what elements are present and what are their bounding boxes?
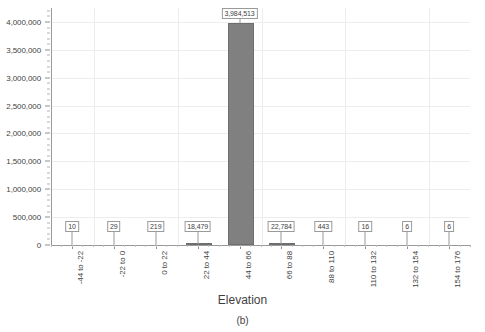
data-label-leader-line bbox=[407, 232, 408, 245]
x-minor-tick bbox=[261, 245, 262, 247]
x-category-label: 88 to 110 bbox=[327, 251, 336, 283]
x-minor-tick bbox=[344, 245, 345, 247]
y-minor-tick bbox=[47, 228, 50, 229]
x-minor-tick bbox=[187, 245, 188, 247]
x-category-label: 44 to 66 bbox=[244, 251, 253, 279]
y-minor-tick bbox=[47, 183, 50, 184]
y-minor-tick bbox=[47, 10, 50, 11]
x-minor-tick bbox=[313, 245, 314, 247]
y-minor-tick bbox=[47, 155, 50, 156]
y-minor-tick bbox=[47, 44, 50, 45]
data-label: 219 bbox=[147, 221, 164, 232]
y-minor-tick bbox=[47, 211, 50, 212]
y-minor-tick bbox=[47, 239, 50, 240]
gridline-vertical bbox=[345, 8, 346, 245]
x-category-label: -44 to -22 bbox=[76, 251, 85, 284]
x-category-label: 22 to 44 bbox=[202, 251, 211, 279]
y-minor-tick bbox=[47, 222, 50, 223]
x-minor-tick bbox=[229, 245, 230, 247]
data-label-leader-line bbox=[449, 232, 450, 245]
x-minor-tick bbox=[124, 245, 125, 247]
x-minor-tick bbox=[386, 245, 387, 247]
x-category-label: -22 to 0 bbox=[118, 251, 127, 277]
x-minor-tick bbox=[271, 245, 272, 247]
x-minor-tick bbox=[407, 245, 408, 247]
y-minor-tick bbox=[47, 200, 50, 201]
data-label-leader-line bbox=[281, 232, 282, 244]
x-minor-tick bbox=[61, 245, 62, 247]
data-label: 10 bbox=[65, 221, 79, 232]
y-minor-tick bbox=[47, 233, 50, 234]
gridline-vertical bbox=[94, 8, 95, 245]
y-tick-label: 2,500,000 bbox=[6, 101, 41, 110]
x-minor-tick bbox=[323, 245, 324, 247]
data-label-leader-line bbox=[239, 19, 240, 23]
y-minor-tick bbox=[47, 205, 50, 206]
data-label: 6 bbox=[444, 221, 454, 232]
data-label: 18,479 bbox=[184, 221, 211, 232]
figure-container: 0500,0001,000,0001,500,0002,000,0002,500… bbox=[0, 0, 485, 332]
y-minor-tick bbox=[47, 111, 50, 112]
y-minor-tick bbox=[47, 72, 50, 73]
x-minor-tick bbox=[145, 245, 146, 247]
data-label-leader-line bbox=[71, 232, 72, 245]
data-label: 443 bbox=[315, 221, 332, 232]
y-minor-tick bbox=[47, 55, 50, 56]
x-minor-tick bbox=[250, 245, 251, 247]
x-minor-tick bbox=[240, 245, 241, 247]
x-minor-tick bbox=[397, 245, 398, 247]
data-label-leader-line bbox=[323, 232, 324, 245]
x-minor-tick bbox=[439, 245, 440, 247]
x-minor-tick bbox=[51, 245, 52, 247]
y-tick-mark bbox=[45, 77, 50, 78]
x-minor-tick bbox=[114, 245, 115, 247]
x-minor-tick bbox=[428, 245, 429, 247]
data-label: 22,784 bbox=[268, 221, 295, 232]
x-minor-tick bbox=[177, 245, 178, 247]
x-minor-tick bbox=[72, 245, 73, 247]
y-minor-tick bbox=[47, 122, 50, 123]
y-tick-mark bbox=[45, 49, 50, 50]
x-category-label: 132 to 154 bbox=[411, 251, 420, 288]
x-minor-tick bbox=[93, 245, 94, 247]
y-minor-tick bbox=[47, 172, 50, 173]
y-tick-mark bbox=[45, 217, 50, 218]
figure-caption: (b) bbox=[0, 315, 485, 326]
y-minor-tick bbox=[47, 83, 50, 84]
data-label-leader-line bbox=[365, 232, 366, 245]
gridline-vertical bbox=[178, 8, 179, 245]
x-minor-tick bbox=[302, 245, 303, 247]
x-minor-tick bbox=[470, 245, 471, 247]
y-minor-tick bbox=[47, 38, 50, 39]
x-minor-tick bbox=[219, 245, 220, 247]
y-tick-mark bbox=[45, 133, 50, 134]
y-minor-tick bbox=[47, 144, 50, 145]
data-label-leader-line bbox=[113, 232, 114, 245]
y-minor-tick bbox=[47, 66, 50, 67]
gridline-vertical bbox=[429, 8, 430, 245]
y-minor-tick bbox=[47, 166, 50, 167]
data-label-leader-line bbox=[197, 232, 198, 244]
y-tick-mark bbox=[45, 245, 50, 246]
x-minor-tick bbox=[418, 245, 419, 247]
x-minor-tick bbox=[355, 245, 356, 247]
x-minor-tick bbox=[103, 245, 104, 247]
gridline-vertical bbox=[262, 8, 263, 245]
y-tick-mark bbox=[45, 189, 50, 190]
x-minor-tick bbox=[292, 245, 293, 247]
x-minor-tick bbox=[166, 245, 167, 247]
data-label-leader-line bbox=[155, 232, 156, 245]
y-minor-tick bbox=[47, 178, 50, 179]
y-minor-tick bbox=[47, 100, 50, 101]
y-axis: 0500,0001,000,0001,500,0002,000,0002,500… bbox=[0, 8, 47, 245]
y-minor-tick bbox=[47, 116, 50, 117]
y-tick-label: 3,000,000 bbox=[6, 73, 41, 82]
y-tick-label: 1,000,000 bbox=[6, 185, 41, 194]
y-tick-label: 1,500,000 bbox=[6, 157, 41, 166]
x-minor-tick bbox=[460, 245, 461, 247]
y-minor-tick bbox=[47, 150, 50, 151]
y-tick-label: 4,000,000 bbox=[6, 17, 41, 26]
x-minor-tick bbox=[281, 245, 282, 247]
plot-area bbox=[51, 8, 470, 245]
x-minor-tick bbox=[365, 245, 366, 247]
